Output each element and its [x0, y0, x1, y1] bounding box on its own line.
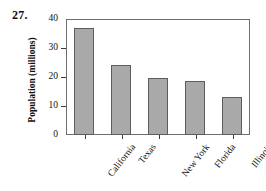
x-axis-tick-mark [159, 135, 160, 139]
x-axis-tick-mark [196, 135, 197, 139]
y-axis-tick-mark [61, 77, 66, 78]
x-axis-tick-mark [233, 135, 234, 139]
x-axis-tick-label: New York [180, 142, 212, 179]
bar-chart-figure: Population (millions) 010203040 Californ… [0, 0, 266, 191]
x-axis-tick-label: Florida [212, 142, 237, 170]
x-axis-tick-labels: CaliforniaTexasNew YorkFloridaIllinois [0, 0, 266, 191]
y-axis-tick-mark [61, 106, 66, 107]
y-axis-tick-mark [61, 48, 66, 49]
x-axis-tick-mark [85, 135, 86, 139]
x-axis-tick-label: California [106, 142, 138, 179]
x-axis-tick-mark [122, 135, 123, 139]
x-axis-tick-label: Texas [137, 142, 158, 166]
x-axis-tick-label: Illinois [249, 142, 266, 169]
